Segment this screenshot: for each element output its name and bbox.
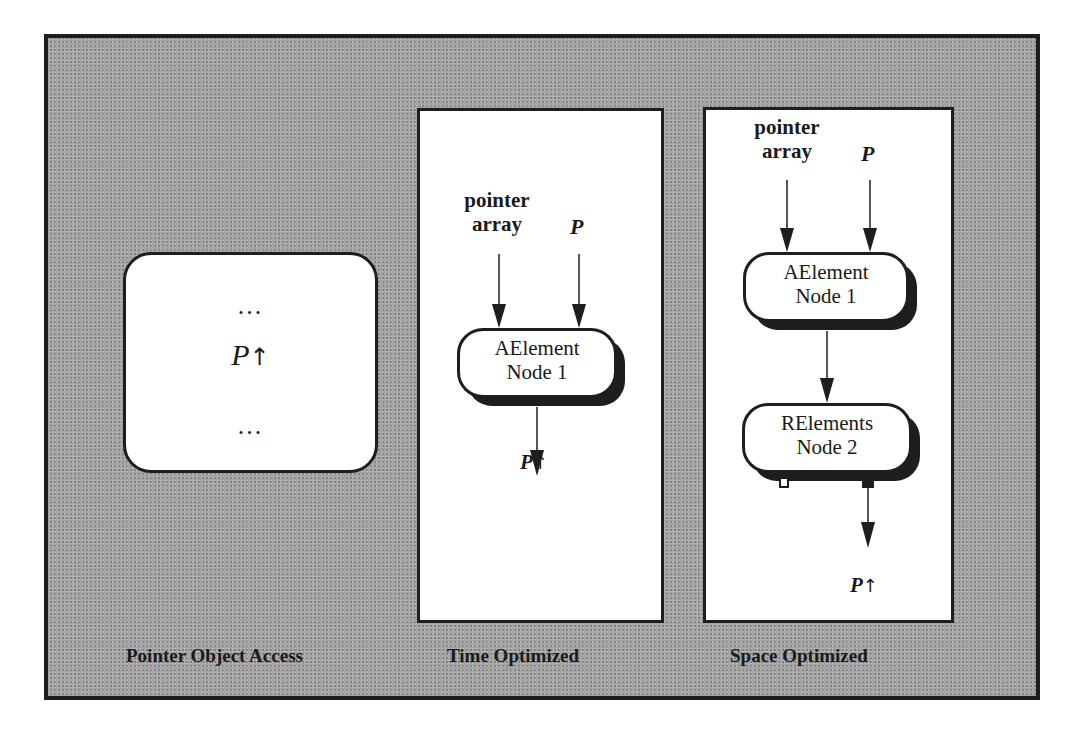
- node-subtitle: Node 1: [746, 284, 906, 308]
- output-port-filled: [862, 477, 874, 488]
- caption-pointer-object-access: Pointer Object Access: [126, 645, 303, 667]
- pointer-p-label: P: [570, 214, 583, 240]
- pointer-variable: P: [231, 338, 249, 371]
- node-title: AElement: [460, 336, 614, 360]
- pointer-dereference-output: P↑: [520, 450, 548, 475]
- pointer-variable: P: [520, 450, 533, 474]
- pointer-object-access-box: ... P↑ ...: [123, 252, 378, 473]
- pointer-array-label: pointer array: [452, 188, 542, 236]
- node-title: RElements: [745, 411, 909, 435]
- label-line: array: [452, 212, 542, 236]
- label-line: pointer: [452, 188, 542, 212]
- pointer-dereference-expression: P↑: [126, 338, 375, 372]
- up-arrow-icon: ↑: [250, 343, 270, 371]
- pointer-p-label: P: [861, 141, 874, 167]
- node-title: AElement: [746, 260, 906, 284]
- up-arrow-icon: ↑: [863, 575, 878, 596]
- ellipsis-bottom: ...: [126, 413, 375, 439]
- label-line: pointer: [742, 115, 832, 139]
- ellipsis-top: ...: [126, 293, 375, 319]
- input-port-open: [779, 477, 789, 488]
- aelement-node-1: AElement Node 1: [743, 252, 909, 322]
- node-subtitle: Node 1: [460, 360, 614, 384]
- pointer-dereference-output: P↑: [850, 573, 878, 598]
- space-optimized-panel: [703, 107, 954, 623]
- pointer-array-label: pointer array: [742, 115, 832, 163]
- relements-node-2: RElements Node 2: [742, 403, 912, 473]
- caption-time-optimized: Time Optimized: [447, 645, 579, 667]
- caption-space-optimized: Space Optimized: [730, 645, 868, 667]
- aelement-node-1: AElement Node 1: [457, 328, 617, 398]
- up-arrow-icon: ↑: [533, 452, 548, 473]
- pointer-variable: P: [850, 573, 863, 597]
- node-subtitle: Node 2: [745, 435, 909, 459]
- label-line: array: [742, 139, 832, 163]
